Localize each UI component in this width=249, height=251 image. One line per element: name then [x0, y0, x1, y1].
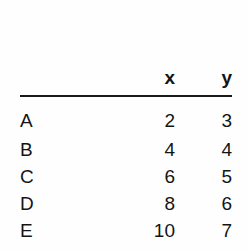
cell-x: 4 [116, 136, 175, 163]
table-header-row: x y [20, 62, 232, 96]
column-header-x: x [116, 62, 175, 96]
column-header-y: y [175, 62, 232, 96]
cell-y: 5 [175, 163, 232, 190]
table-body: A 2 3 B 4 4 C 6 5 D 8 6 E 10 7 [20, 96, 232, 244]
table-row: A 2 3 [20, 96, 232, 136]
row-label: B [20, 136, 116, 163]
table-row: E 10 7 [20, 217, 232, 244]
table-row: D 8 6 [20, 190, 232, 217]
cell-x: 10 [116, 217, 175, 244]
table-row: B 4 4 [20, 136, 232, 163]
cell-x: 8 [116, 190, 175, 217]
cell-x: 6 [116, 163, 175, 190]
document-canvas: x y A 2 3 B 4 4 C 6 5 D 8 6 [0, 0, 249, 251]
table-header: x y [20, 62, 232, 96]
cell-x: 2 [116, 96, 175, 136]
cell-y: 3 [175, 96, 232, 136]
table-row: C 6 5 [20, 163, 232, 190]
cell-y: 7 [175, 217, 232, 244]
row-label: E [20, 217, 116, 244]
cell-y: 4 [175, 136, 232, 163]
row-label: D [20, 190, 116, 217]
data-table: x y A 2 3 B 4 4 C 6 5 D 8 6 [20, 62, 232, 244]
column-header-row-label [20, 62, 116, 96]
row-label: A [20, 96, 116, 136]
cell-y: 6 [175, 190, 232, 217]
row-label: C [20, 163, 116, 190]
